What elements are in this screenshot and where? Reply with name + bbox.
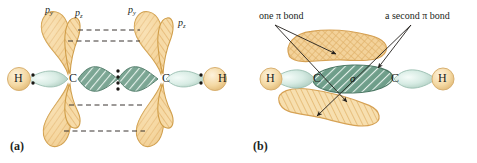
electron-dot: [116, 69, 119, 72]
atom-label-c-right-b: C: [391, 72, 399, 84]
annotation-second-pi-bond: a second π bond: [385, 11, 450, 21]
electron-dot: [31, 73, 34, 76]
orbital-label-pz-right: pz: [178, 18, 186, 28]
sp-hybrid-lobe-right: [166, 71, 206, 87]
sp-hybrid-lobe-right-b: [394, 70, 436, 88]
pi-bond-cloud-upper: [287, 27, 387, 64]
orbital-label-py-right: py: [128, 5, 136, 15]
orbital-label-py-left: py: [45, 5, 53, 15]
sp-hybrid-lobe-left: [28, 71, 68, 87]
atom-label-c-left-b: C: [313, 72, 321, 84]
panel-a-orbital-overlap: py pz py pz H C C H (a): [0, 0, 239, 163]
p-orbital-pz-right-lower: [158, 84, 173, 128]
sigma-bond-label: σ: [350, 73, 355, 84]
electron-dot: [116, 81, 119, 84]
atom-label-h-right: H: [218, 72, 227, 84]
panel-tag-a: (a): [10, 140, 24, 152]
orbital-label-pz-left: pz: [75, 8, 83, 18]
panel-tag-b: (b): [253, 140, 268, 152]
atom-label-c-left: C: [69, 72, 77, 84]
atom-label-h-right-b: H: [438, 72, 447, 84]
electron-dot: [199, 81, 202, 84]
pi-bond-cloud-lower: [278, 88, 380, 127]
panel-b-pi-bonds: one π bond a second π bond σ H C C H (b): [239, 0, 477, 163]
electron-dot: [199, 73, 202, 76]
p-orbital-pz-left-lower: [65, 84, 80, 128]
atom-label-c-right: C: [162, 72, 170, 84]
electron-dot: [31, 81, 34, 84]
electron-dot: [116, 87, 119, 90]
electron-dot: [116, 75, 119, 78]
panel-a-drawing: [0, 0, 239, 163]
atom-label-h-left-b: H: [266, 72, 275, 84]
figure-container: py pz py pz H C C H (a): [0, 0, 477, 163]
atom-label-h-left: H: [14, 72, 23, 84]
annotation-one-pi-bond: one π bond: [259, 11, 304, 21]
